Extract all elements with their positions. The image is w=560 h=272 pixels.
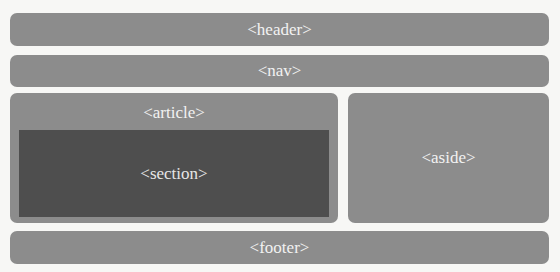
aside-label: <aside>	[421, 148, 475, 168]
footer-label: <footer>	[250, 238, 310, 258]
section-label: <section>	[140, 164, 207, 184]
header-block: <header>	[10, 13, 549, 46]
section-block: <section>	[19, 130, 329, 217]
article-label: <article>	[10, 103, 338, 123]
header-label: <header>	[247, 20, 311, 40]
nav-label: <nav>	[258, 61, 302, 81]
aside-block: <aside>	[348, 93, 549, 223]
footer-block: <footer>	[10, 231, 549, 264]
article-block: <article> <section>	[10, 93, 338, 223]
nav-block: <nav>	[10, 55, 549, 87]
